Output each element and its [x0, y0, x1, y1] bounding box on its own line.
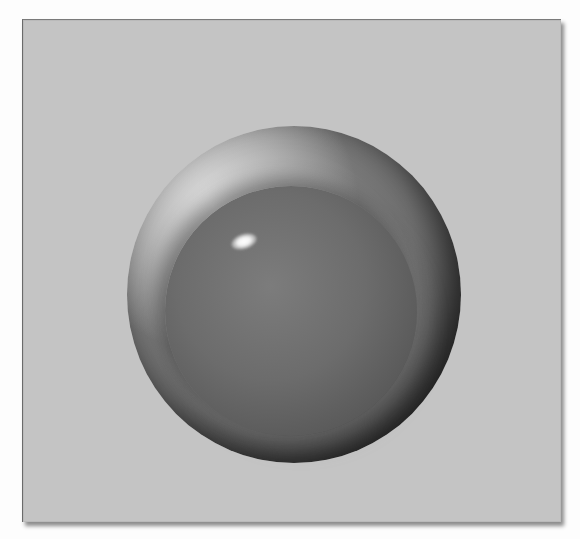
inner-dome	[165, 186, 417, 436]
shaded-sphere	[127, 126, 461, 463]
render-panel	[22, 19, 561, 522]
specular-highlight	[229, 230, 258, 252]
